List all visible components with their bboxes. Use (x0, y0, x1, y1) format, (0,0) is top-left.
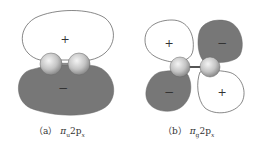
caption-a: （a） πu2px (34, 124, 85, 138)
sign-minus: − (217, 36, 227, 50)
caption-b: （b） πg2px (163, 124, 214, 138)
panel-b-pi-g-antibonding: + − − + (145, 20, 244, 113)
caption-label: （a） (34, 126, 57, 136)
atom-left (170, 57, 190, 77)
atom-right (200, 57, 220, 77)
sign-plus: + (164, 37, 173, 50)
caption-orbital-sub: x (82, 131, 85, 138)
sign-plus: + (217, 86, 226, 99)
atom-right (68, 53, 90, 75)
orbital-diagram: + − + − − + (0, 0, 265, 144)
caption-label: （b） (163, 126, 187, 136)
sign-minus: − (164, 85, 174, 99)
panel-a-pi-u-bonding: + − (18, 11, 113, 116)
caption-orbital: 2p (70, 126, 82, 136)
sign-plus: + (60, 33, 69, 46)
atom-left (40, 53, 62, 75)
sign-minus: − (58, 81, 68, 95)
caption-orbital: 2p (199, 126, 211, 136)
caption-orbital-sub: x (211, 131, 214, 138)
